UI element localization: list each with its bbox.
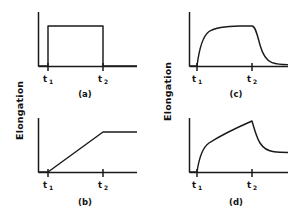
panel-b-t2-label: t: [98, 180, 102, 190]
panel-c-t2-label: t: [247, 74, 251, 84]
y-axis-label-left: Elongation: [14, 81, 25, 140]
panel-a-t2-subscript: 2: [104, 78, 108, 85]
panel-d: t 1 t 2 (d): [190, 118, 289, 207]
panel-c-t2-subscript: 2: [253, 78, 257, 85]
figure-container: Elongation Elongation t 1 t 2 (a) t 1 t: [0, 0, 296, 213]
panel-b-t1-subscript: 1: [49, 184, 53, 191]
panel-b-t2-subscript: 2: [104, 184, 108, 191]
panel-c: t 1 t 2 (c): [190, 12, 289, 99]
panel-a-t2-label: t: [98, 74, 102, 84]
panel-b-t1-label: t: [43, 180, 47, 190]
panel-a-caption: (a): [78, 89, 92, 99]
plots-svg: t 1 t 2 (a) t 1 t 2 (b) t: [0, 0, 296, 213]
panel-d-curve: [190, 121, 289, 172]
panel-c-t1-subscript: 1: [198, 78, 202, 85]
panel-d-t1-label: t: [192, 180, 196, 190]
panel-d-t2-label: t: [247, 180, 251, 190]
panel-b-curve: [39, 132, 138, 172]
panel-a: t 1 t 2 (a): [39, 12, 138, 99]
panel-b-caption: (b): [78, 197, 92, 207]
panel-c-t1-label: t: [192, 74, 196, 84]
panel-a-t1-label: t: [43, 74, 47, 84]
panel-c-curve: [190, 26, 289, 66]
panel-b: t 1 t 2 (b): [39, 118, 138, 207]
panel-a-t1-subscript: 1: [49, 78, 53, 85]
panel-a-curve: [39, 26, 138, 66]
panel-d-t2-subscript: 2: [253, 184, 257, 191]
y-axis-label-right: Elongation: [162, 62, 173, 121]
panel-d-caption: (d): [229, 197, 243, 207]
panel-d-t1-subscript: 1: [198, 184, 202, 191]
panel-c-caption: (c): [230, 89, 243, 99]
